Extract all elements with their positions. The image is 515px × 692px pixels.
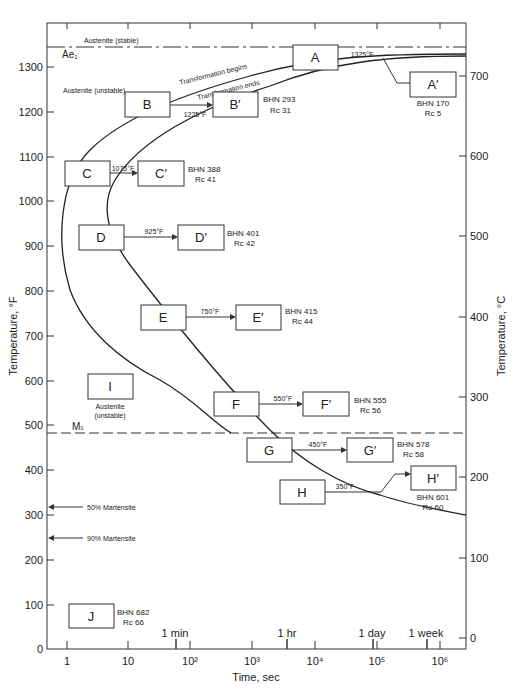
martensite-50-marker: 50% Martensite: [48, 504, 136, 511]
svg-text:1: 1: [64, 655, 70, 667]
svg-text:200: 200: [25, 554, 43, 566]
svg-text:BHN 293: BHN 293: [263, 95, 296, 104]
right-ticks: [459, 76, 466, 638]
svg-text:Rc 66: Rc 66: [123, 618, 144, 627]
svg-text:100: 100: [470, 552, 488, 564]
svg-text:500: 500: [25, 419, 43, 431]
box-f-group: F 550°F F′ BHN 555 Rc 56: [214, 392, 387, 416]
svg-text:10²: 10²: [182, 655, 198, 667]
y-left-label: Temperature, °F: [7, 296, 19, 375]
svg-text:750°F: 750°F: [201, 308, 220, 315]
svg-text:1 day: 1 day: [359, 627, 386, 639]
svg-text:10⁵: 10⁵: [369, 655, 386, 667]
svg-text:BHN 401: BHN 401: [227, 229, 260, 238]
austenite-stable-label: Austenite (stable): [84, 37, 138, 45]
svg-text:BHN 170: BHN 170: [417, 99, 450, 108]
svg-text:I: I: [108, 379, 112, 394]
martensite-90-marker: 90% Martensite: [48, 535, 136, 542]
svg-text:1200: 1200: [19, 106, 43, 118]
svg-text:10⁴: 10⁴: [307, 655, 324, 667]
svg-text:D′: D′: [195, 230, 207, 245]
box-h-group: H 350°F H′ BHN 601 Rc 60: [280, 466, 456, 512]
svg-text:925°F: 925°F: [145, 228, 164, 235]
svg-text:700: 700: [25, 330, 43, 342]
svg-text:10³: 10³: [244, 655, 260, 667]
svg-text:1000: 1000: [19, 195, 43, 207]
svg-text:F: F: [232, 397, 240, 412]
y-right-label: Temperature, °C: [495, 296, 507, 376]
svg-text:BHN 415: BHN 415: [285, 307, 318, 316]
svg-text:100: 100: [25, 599, 43, 611]
svg-text:Rc 31: Rc 31: [270, 106, 291, 115]
svg-text:Rc 44: Rc 44: [292, 317, 313, 326]
svg-text:D: D: [96, 230, 105, 245]
svg-text:200: 200: [470, 471, 488, 483]
svg-text:A: A: [311, 50, 320, 65]
svg-text:1 hr: 1 hr: [278, 627, 297, 639]
svg-text:400: 400: [25, 464, 43, 476]
svg-text:J: J: [88, 609, 95, 624]
svg-text:B′: B′: [229, 97, 241, 112]
bottom-ticks: [67, 639, 440, 649]
svg-text:C: C: [82, 166, 91, 181]
svg-text:400: 400: [470, 311, 488, 323]
time-markers: 1 min 1 hr 1 day 1 week: [162, 627, 444, 639]
box-j-group: J BHN 682 Rc 66: [69, 604, 150, 628]
svg-text:BHN 682: BHN 682: [117, 608, 150, 617]
svg-text:1075°F: 1075°F: [112, 165, 135, 172]
svg-text:F′: F′: [321, 397, 332, 412]
svg-text:1325°F: 1325°F: [351, 51, 374, 58]
svg-text:BHN 578: BHN 578: [397, 440, 430, 449]
ttt-diagram: 1300 1200 1100 1000 900 800 700 600 500 …: [0, 0, 515, 692]
box-d-group: D 925°F D′ BHN 401 Rc 42: [79, 225, 260, 250]
box-g-group: G 450°F G′ BHN 578 Rc 58: [247, 438, 430, 462]
svg-text:1300: 1300: [19, 61, 43, 73]
svg-text:450°F: 450°F: [309, 441, 328, 448]
svg-text:900: 900: [25, 240, 43, 252]
ms-label: Mₛ: [72, 421, 84, 432]
svg-text:H′: H′: [427, 471, 439, 486]
box-i-group: I Austenite (unstable): [88, 374, 133, 420]
svg-text:BHN 601: BHN 601: [417, 493, 450, 502]
x-axis-label: Time, sec: [232, 671, 280, 683]
svg-text:700: 700: [470, 70, 488, 82]
left-tick-labels: 1300 1200 1100 1000 900 800 700 600 500 …: [19, 61, 43, 655]
svg-text:B: B: [143, 97, 152, 112]
svg-text:10: 10: [122, 655, 134, 667]
svg-text:Austenite: Austenite: [95, 403, 124, 410]
svg-text:E: E: [159, 310, 168, 325]
svg-text:C′: C′: [155, 166, 167, 181]
bottom-tick-labels: 1 10 10² 10³ 10⁴ 10⁵ 10⁶: [64, 655, 448, 667]
svg-text:300: 300: [470, 391, 488, 403]
svg-text:0: 0: [37, 643, 43, 655]
svg-text:600: 600: [25, 375, 43, 387]
svg-text:10⁶: 10⁶: [432, 655, 449, 667]
svg-text:G: G: [264, 443, 274, 458]
svg-text:350°F: 350°F: [336, 483, 355, 490]
austenite-unstable-label: Austenite (unstable): [63, 87, 125, 95]
svg-text:Rc 5: Rc 5: [425, 109, 442, 118]
svg-text:1 week: 1 week: [409, 627, 444, 639]
svg-text:Rc 42: Rc 42: [234, 239, 255, 248]
svg-text:E′: E′: [252, 310, 264, 325]
svg-text:600: 600: [470, 150, 488, 162]
svg-text:500: 500: [470, 230, 488, 242]
svg-text:300: 300: [25, 509, 43, 521]
top-ticks: [67, 23, 440, 29]
svg-text:Rc 41: Rc 41: [195, 175, 216, 184]
svg-text:1 min: 1 min: [162, 627, 189, 639]
svg-text:H: H: [297, 485, 306, 500]
right-tick-labels: 700 600 500 400 300 200 100 0: [470, 70, 488, 644]
left-ticks: [47, 67, 54, 605]
box-c-group: C 1075°F C′ BHN 388 Rc 41: [65, 161, 221, 186]
svg-text:1100: 1100: [19, 151, 43, 163]
box-e-group: E 750°F E′ BHN 415 Rc 44: [141, 305, 318, 330]
svg-text:(unstable): (unstable): [94, 412, 125, 420]
svg-text:BHN 555: BHN 555: [354, 396, 387, 405]
svg-text:Rc 58: Rc 58: [403, 450, 424, 459]
svg-text:Rc 56: Rc 56: [360, 406, 381, 415]
svg-text:90% Martensite: 90% Martensite: [87, 535, 136, 542]
svg-text:1225°F: 1225°F: [184, 111, 207, 118]
svg-text:BHN 388: BHN 388: [188, 165, 221, 174]
svg-text:50% Martensite: 50% Martensite: [87, 504, 136, 511]
